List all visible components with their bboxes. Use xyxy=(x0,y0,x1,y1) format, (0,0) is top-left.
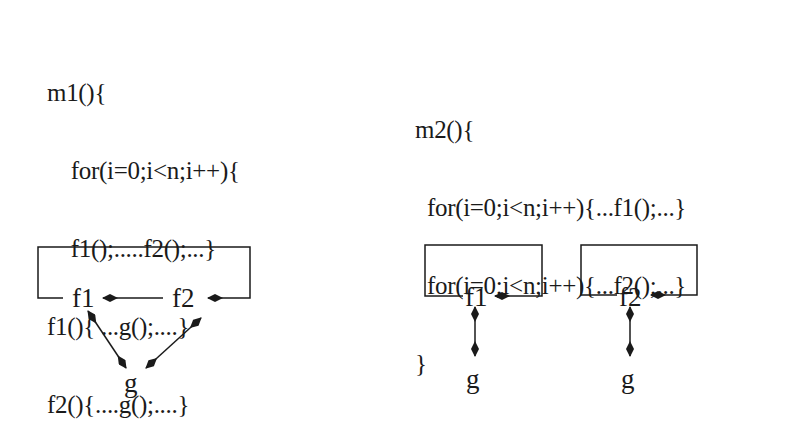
node-g: g xyxy=(466,364,480,394)
node-f1: f1 xyxy=(465,282,488,312)
graph-m1: f1 f2 g xyxy=(38,247,250,398)
graph-m2: f1 f2 g g xyxy=(425,245,697,394)
call-graphs: f1 f2 g f1 f2 g g xyxy=(0,0,791,427)
node-g: g xyxy=(621,364,635,394)
loop-edge-f1-f2 xyxy=(38,247,250,298)
node-f2: f2 xyxy=(172,283,195,313)
node-f2: f2 xyxy=(619,282,642,312)
edge-f2-g xyxy=(146,318,201,368)
node-f1: f1 xyxy=(72,283,95,313)
node-g: g xyxy=(124,368,138,398)
edge-f1-g xyxy=(88,311,126,368)
